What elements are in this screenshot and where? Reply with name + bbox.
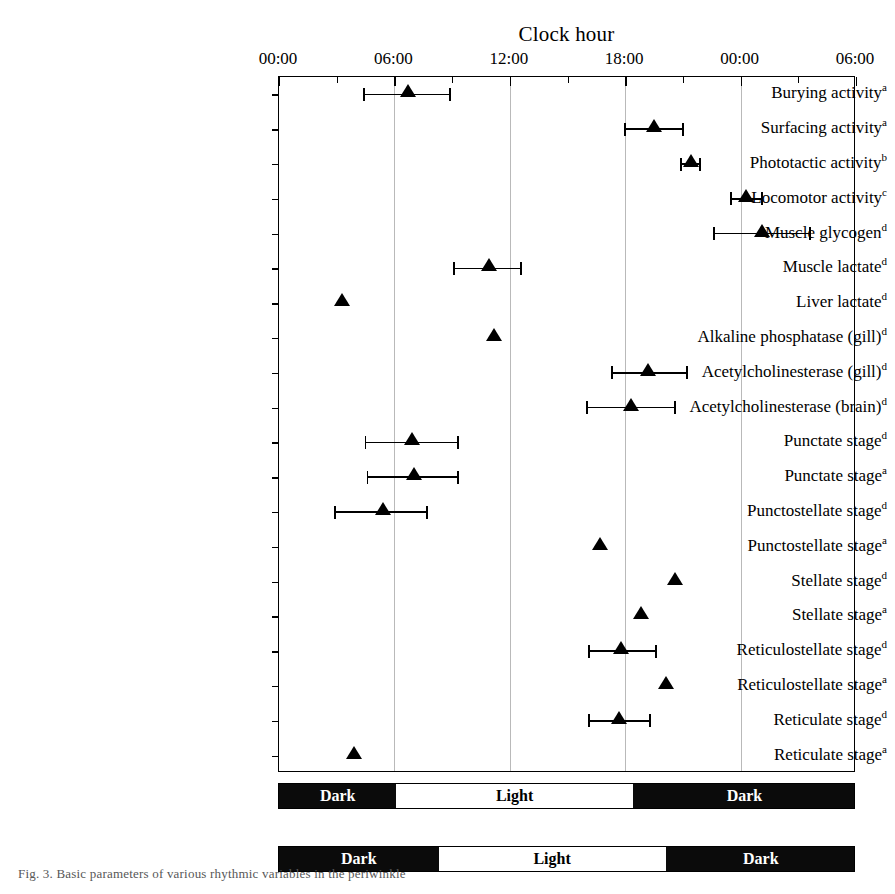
photoperiod-bar-upper: DarkLightDark <box>278 783 855 809</box>
row-label-superscript: b <box>882 151 888 163</box>
y-tick-7 <box>272 338 279 339</box>
photoperiod-bar-upper-segment-dark-0: Dark <box>279 784 396 808</box>
y-tick-15 <box>272 616 279 617</box>
data-marker-10[interactable] <box>404 432 420 445</box>
x-tick-label-4: 00:00 <box>700 49 780 69</box>
row-label-superscript: a <box>882 743 887 755</box>
row-label-text: Reticulate stage <box>774 745 882 764</box>
row-label-superscript: a <box>882 82 887 94</box>
row-label-superscript: d <box>882 291 888 303</box>
y-axis-label-19: Reticulate stagea <box>623 746 895 763</box>
row-label-text: Burying activity <box>771 83 882 102</box>
row-label-text: Surfacing activity <box>761 118 882 137</box>
data-marker-19[interactable] <box>346 746 362 759</box>
x-tick-minor-2 <box>568 77 569 83</box>
y-axis-label-10: Punctate staged <box>623 432 895 449</box>
error-cap-18-low <box>588 714 590 727</box>
gridline-2 <box>510 77 511 771</box>
gridline-4 <box>741 77 742 771</box>
gridline-1 <box>394 77 395 771</box>
y-tick-16 <box>272 651 279 652</box>
error-cap-10-low <box>365 436 367 449</box>
row-label-text: Punctate stage <box>784 466 882 485</box>
error-cap-0-low <box>363 88 365 101</box>
x-tick-label-5: 06:00 <box>815 49 895 69</box>
row-label-superscript: a <box>882 117 887 129</box>
error-cap-11-high <box>457 471 459 484</box>
y-tick-10 <box>272 442 279 443</box>
row-label-text: Punctostellate stage <box>748 536 883 555</box>
row-label-text: Phototactic activity <box>750 153 882 172</box>
y-axis-label-6: Liver lactated <box>623 293 895 310</box>
y-axis-label-5: Muscle lactated <box>623 258 895 275</box>
x-tick-label-2: 12:00 <box>469 49 549 69</box>
row-label-superscript: d <box>882 325 888 337</box>
figure-caption: Fig. 3. Basic parameters of various rhyt… <box>18 866 878 882</box>
error-cap-9-low <box>586 401 588 414</box>
x-tick-minor-0 <box>337 77 338 83</box>
x-tick-label-1: 06:00 <box>353 49 433 69</box>
y-tick-14 <box>272 582 279 583</box>
data-marker-7[interactable] <box>486 328 502 341</box>
y-tick-9 <box>272 408 279 409</box>
y-tick-4 <box>272 234 279 235</box>
y-axis-label-0: Burying activitya <box>623 84 895 101</box>
error-cap-10-high <box>457 436 459 449</box>
y-tick-6 <box>272 303 279 304</box>
x-tick-major-2 <box>510 77 511 86</box>
y-axis-label-16: Reticulostellate staged <box>623 641 895 658</box>
row-label-superscript: d <box>882 360 888 372</box>
x-tick-label-0: 00:00 <box>238 49 318 69</box>
y-axis-label-7: Alkaline phosphatase (gill)d <box>623 328 895 345</box>
y-tick-11 <box>272 477 279 478</box>
y-axis-label-9: Acetylcholinesterase (brain)d <box>623 398 895 415</box>
y-axis-label-1: Surfacing activitya <box>623 119 895 136</box>
row-label-text: Acetylcholinesterase (brain) <box>689 397 881 416</box>
data-marker-5[interactable] <box>481 258 497 271</box>
error-cap-8-low <box>611 366 613 379</box>
x-tick-label-3: 18:00 <box>584 49 664 69</box>
row-label-superscript: d <box>882 430 888 442</box>
row-label-superscript: d <box>882 395 888 407</box>
row-label-superscript: d <box>882 708 888 720</box>
error-cap-5-low <box>453 262 455 275</box>
row-label-text: Stellate stage <box>791 571 881 590</box>
row-label-text: Acetylcholinesterase (gill) <box>702 362 882 381</box>
error-cap-12-low <box>334 506 336 519</box>
page-title: Clock hour <box>278 22 855 47</box>
y-tick-2 <box>272 164 279 165</box>
y-axis-label-8: Acetylcholinesterase (gill)d <box>623 363 895 380</box>
row-label-superscript: a <box>882 673 887 685</box>
row-label-text: Punctostellate stage <box>747 501 882 520</box>
row-label-superscript: d <box>882 499 888 511</box>
plot-area <box>278 76 855 772</box>
x-tick-minor-3 <box>683 77 684 83</box>
data-marker-13[interactable] <box>592 537 608 550</box>
y-tick-3 <box>272 199 279 200</box>
data-marker-6[interactable] <box>334 293 350 306</box>
error-cap-11-low <box>367 471 369 484</box>
row-label-superscript: c <box>882 186 887 198</box>
data-marker-11[interactable] <box>406 467 422 480</box>
row-label-superscript: d <box>882 569 888 581</box>
row-label-superscript: a <box>882 604 887 616</box>
figure-container: Clock hour 00:0006:0012:0018:0000:0006:0… <box>0 0 895 894</box>
row-label-superscript: d <box>882 639 888 651</box>
y-axis-label-18: Reticulate staged <box>623 711 895 728</box>
x-tick-minor-1 <box>452 77 453 83</box>
row-label-text: Muscle glycogen <box>765 223 882 242</box>
data-marker-12[interactable] <box>375 502 391 515</box>
y-axis-label-4: Muscle glycogend <box>623 224 895 241</box>
data-marker-0[interactable] <box>400 84 416 97</box>
error-cap-5-high <box>520 262 522 275</box>
y-axis-label-11: Punctate stagea <box>623 467 895 484</box>
row-label-text: Reticulostellate stage <box>737 675 882 694</box>
row-label-text: Stellate stage <box>792 605 882 624</box>
y-tick-18 <box>272 721 279 722</box>
row-label-superscript: a <box>882 534 887 546</box>
gridline-3 <box>625 77 626 771</box>
error-cap-16-low <box>588 645 590 658</box>
y-axis-label-17: Reticulostellate stagea <box>623 676 895 693</box>
y-tick-1 <box>272 129 279 130</box>
y-axis-label-13: Punctostellate stagea <box>623 537 895 554</box>
